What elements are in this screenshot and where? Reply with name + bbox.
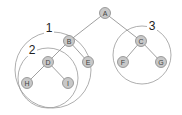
node-I: I [63,78,74,89]
node-A: A [100,8,111,19]
node-label: F [121,59,125,66]
subtree-label-3: 3 [149,19,156,33]
node-E: E [83,57,94,68]
node-label: E [86,59,91,66]
node-G: G [156,57,167,68]
edge-A-B [69,13,105,41]
subtree-circle-1 [15,32,91,108]
node-B: B [64,36,75,47]
node-label: H [24,80,29,87]
node-label: B [67,38,72,45]
node-H: H [22,78,33,89]
subtree-circle-3 [113,26,171,84]
node-label: G [158,59,163,66]
node-C: C [136,36,147,47]
node-label: C [138,38,143,45]
node-label: A [103,10,108,17]
subtree-label-1: 1 [46,21,53,35]
subtree-label-2: 2 [29,43,36,57]
node-D: D [43,57,54,68]
node-label: D [45,59,50,66]
tree-diagram: 123ABCDEFGHI [0,0,182,115]
node-F: F [118,57,129,68]
node-label: I [67,80,69,87]
